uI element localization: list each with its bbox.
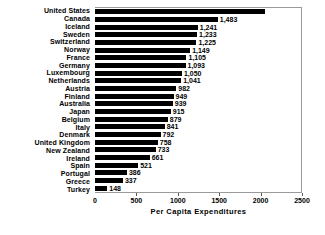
category-label: Norway bbox=[0, 46, 93, 54]
bar-value-label: 661 bbox=[150, 154, 164, 161]
x-axis-title: Per Capita Expenditures bbox=[95, 207, 302, 217]
category-axis: United StatesCanadaIcelandSwedenSwitzerl… bbox=[0, 7, 93, 193]
category-label: Finland bbox=[0, 92, 93, 100]
bar-row: 792 bbox=[95, 131, 301, 139]
bar-value-label: 1,225 bbox=[196, 39, 216, 46]
bar-row: 879 bbox=[95, 115, 301, 123]
bar-value-label: 1,041 bbox=[181, 77, 201, 84]
bar-row: 915 bbox=[95, 108, 301, 116]
bar bbox=[95, 117, 168, 122]
category-label: Italy bbox=[0, 123, 93, 131]
category-label: Luxembourg bbox=[0, 69, 93, 77]
bar-value-label: 758 bbox=[158, 139, 172, 146]
bar bbox=[95, 78, 181, 83]
bars-container: $2,0511,4831,2411,2331,2251,1491,1051,09… bbox=[95, 8, 301, 192]
bar-row: 661 bbox=[95, 154, 301, 162]
bar-value-label: 386 bbox=[127, 169, 141, 176]
bar bbox=[95, 163, 138, 168]
bar-row: 148 bbox=[95, 184, 301, 192]
bar-value-label: $2,051 bbox=[278, 8, 299, 15]
bar-chart: United StatesCanadaIcelandSwedenSwitzerl… bbox=[0, 0, 325, 235]
bar bbox=[95, 101, 173, 106]
bar bbox=[95, 170, 127, 175]
bar bbox=[95, 109, 171, 114]
category-label: Australia bbox=[0, 100, 93, 108]
bar bbox=[95, 86, 176, 91]
bar-value-label: 1,483 bbox=[218, 16, 238, 23]
bar-row: 1,233 bbox=[95, 31, 301, 39]
bar-row: 521 bbox=[95, 161, 301, 169]
bar-value-label: 148 bbox=[107, 185, 121, 192]
category-label: Austria bbox=[0, 85, 93, 93]
bar bbox=[95, 9, 265, 14]
bar-value-label: 1,241 bbox=[198, 24, 218, 31]
category-label: Iceland bbox=[0, 23, 93, 31]
bar-value-label: 1,093 bbox=[186, 62, 206, 69]
bar-value-label: 915 bbox=[171, 108, 185, 115]
bar-row: 1,093 bbox=[95, 62, 301, 70]
bar-row: 386 bbox=[95, 169, 301, 177]
category-label: Germany bbox=[0, 61, 93, 69]
category-label: Spain bbox=[0, 162, 93, 170]
axis-tick-label: 0 bbox=[93, 197, 97, 205]
bar-row: 733 bbox=[95, 146, 301, 154]
axis-tick-mark bbox=[136, 193, 137, 196]
value-axis: 05001000150020002500 bbox=[95, 193, 302, 207]
bar bbox=[95, 40, 196, 45]
category-label: United States bbox=[0, 7, 93, 15]
axis-tick-label: 1000 bbox=[170, 197, 186, 205]
bar-row: 1,241 bbox=[95, 23, 301, 31]
bar-row: 1,041 bbox=[95, 77, 301, 85]
axis-tick-label: 2000 bbox=[253, 197, 269, 205]
category-label: France bbox=[0, 54, 93, 62]
bar-value-label: 841 bbox=[165, 123, 179, 130]
bar bbox=[95, 124, 165, 129]
bar bbox=[95, 186, 107, 191]
bar-row: 949 bbox=[95, 92, 301, 100]
category-label: Switzerland bbox=[0, 38, 93, 46]
bar-row: 1,149 bbox=[95, 46, 301, 54]
bar-value-label: 879 bbox=[168, 116, 182, 123]
bar bbox=[95, 63, 186, 68]
bar bbox=[95, 17, 218, 22]
bar-value-label: 337 bbox=[123, 177, 137, 184]
bar-row: 982 bbox=[95, 85, 301, 93]
axis-tick-label: 2500 bbox=[294, 197, 310, 205]
bar-value-label: 1,105 bbox=[186, 54, 206, 61]
bar bbox=[95, 71, 182, 76]
bar bbox=[95, 94, 174, 99]
bar-row: 1,050 bbox=[95, 69, 301, 77]
category-label: Portugal bbox=[0, 170, 93, 178]
bar-value-label: 1,233 bbox=[197, 31, 217, 38]
category-label: Turkey bbox=[0, 185, 93, 193]
bar-value-label: 733 bbox=[156, 146, 170, 153]
bar-row: 1,483 bbox=[95, 16, 301, 24]
bar-row: 1,225 bbox=[95, 39, 301, 47]
category-label: United Kingdom bbox=[0, 139, 93, 147]
category-label: Denmark bbox=[0, 131, 93, 139]
bar-row: 758 bbox=[95, 138, 301, 146]
category-label: Ireland bbox=[0, 154, 93, 162]
axis-tick-label: 500 bbox=[131, 197, 143, 205]
bar bbox=[95, 32, 197, 37]
axis-tick-mark bbox=[261, 193, 262, 196]
category-label: New Zealand bbox=[0, 147, 93, 155]
bar-row: 939 bbox=[95, 100, 301, 108]
bar-value-label: 939 bbox=[173, 100, 187, 107]
category-label: Canada bbox=[0, 15, 93, 23]
bar-row: 841 bbox=[95, 123, 301, 131]
bar bbox=[95, 140, 158, 145]
category-label: Belgium bbox=[0, 116, 93, 124]
bar-value-label: 792 bbox=[161, 131, 175, 138]
axis-tick-mark bbox=[178, 193, 179, 196]
plot-area: $2,0511,4831,2411,2331,2251,1491,1051,09… bbox=[95, 7, 302, 193]
category-label: Japan bbox=[0, 108, 93, 116]
bar bbox=[95, 155, 150, 160]
category-label: Greece bbox=[0, 178, 93, 186]
bar-value-label: 1,149 bbox=[190, 47, 210, 54]
bar bbox=[95, 147, 156, 152]
bar bbox=[95, 55, 186, 60]
bar-value-label: 982 bbox=[176, 85, 190, 92]
axis-tick-mark bbox=[302, 193, 303, 196]
bar-value-label: 949 bbox=[174, 93, 188, 100]
